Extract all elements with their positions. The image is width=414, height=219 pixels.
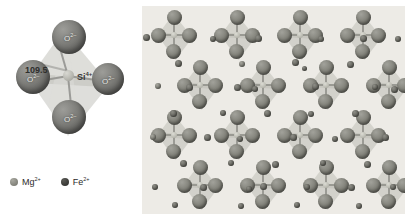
fe-cation [312, 83, 319, 90]
oxygen-sphere-bottom [229, 44, 244, 59]
fe-cation [143, 34, 150, 41]
fe-cation [252, 86, 258, 92]
fe-cation [382, 134, 389, 141]
fe-cation [238, 203, 244, 209]
oxygen-sphere-left [277, 28, 292, 43]
fe-cation [302, 66, 307, 71]
legend-label-mg: Mg2+ [22, 177, 41, 187]
fe-cation [318, 36, 324, 42]
oxygen-sphere-top [382, 60, 397, 75]
oxygen-sphere-bottom [166, 144, 181, 159]
fe-cation [260, 183, 267, 190]
fe-cation [352, 110, 359, 117]
fe-cation [292, 59, 299, 66]
silicon-sphere [323, 82, 329, 88]
mg-swatch-icon [10, 178, 18, 186]
oxygen-sphere-bottom [318, 94, 333, 109]
oxygen-sphere-right [245, 128, 260, 143]
oxygen-sphere-bottom [318, 194, 333, 209]
fe-swatch-icon [61, 178, 69, 186]
oxygen-sphere-bottom [381, 194, 396, 209]
oxygen-sphere-left [177, 178, 192, 193]
oxygen-sphere-left [214, 128, 229, 143]
oxygen-sphere-right [334, 178, 349, 193]
oxygen-sphere-bottom [52, 100, 86, 134]
oxygen-sphere-top [256, 160, 271, 175]
fe-cation [347, 61, 354, 68]
fe-cation [360, 35, 367, 42]
mg-cation [150, 134, 156, 140]
fe-cation [356, 203, 362, 209]
bond-angle-label: 109.5 [25, 66, 48, 75]
oxygen-sphere-top [230, 110, 245, 125]
silicon-sphere [171, 32, 177, 38]
oxygen-sphere-right [371, 28, 386, 43]
oxygen-sphere-right [92, 63, 124, 95]
oxygen-sphere-bottom [381, 94, 396, 109]
crystal-lattice [142, 6, 405, 214]
fe-cation [234, 84, 241, 91]
oxygen-sphere-bottom [355, 144, 370, 159]
fe-cation [304, 184, 310, 190]
oxygen-sphere-right [308, 128, 323, 143]
silicon-sphere [234, 32, 240, 38]
silicon-sphere [171, 132, 177, 138]
mg-cation [155, 83, 161, 89]
oxygen-sphere-top [167, 10, 182, 25]
tetrahedron-unit [272, 108, 328, 164]
oxygen-sphere-top [193, 60, 208, 75]
fe-cation [372, 84, 378, 90]
figure-root: O2– O2– O2– O2– Si4+ 109.5 Mg2+ Fe2+ [0, 0, 414, 219]
oxygen-sphere-right [334, 78, 349, 93]
oxygen-sphere-bottom [355, 44, 370, 59]
oxygen-sphere-top [193, 160, 208, 175]
fe-cation [364, 161, 371, 168]
legend-label-fe: Fe2+ [73, 177, 90, 187]
oxygen-sphere-right [271, 78, 286, 93]
fe-cation [272, 161, 279, 168]
oxygen-sphere-bottom [192, 94, 207, 109]
fe-cation [204, 134, 211, 141]
tetrahedron-stage: O2– O2– O2– O2– Si4+ 109.5 [8, 18, 132, 158]
oxygen-sphere-top [293, 110, 308, 125]
fe-cation [395, 36, 401, 42]
oxygen-sphere-left [340, 128, 355, 143]
oxygen-sphere-right [397, 178, 405, 193]
fe-cation [186, 84, 193, 91]
fe-cation [200, 184, 207, 191]
fe-cation [390, 184, 396, 190]
mg-cation [239, 61, 245, 67]
oxygen-sphere-left [340, 28, 355, 43]
oxygen-sphere-right [208, 178, 223, 193]
silicate-tetrahedron-panel: O2– O2– O2– O2– Si4+ 109.5 Mg2+ Fe2+ [0, 0, 140, 219]
oxygen-sphere-right [271, 178, 286, 193]
oxygen-sphere-left [366, 178, 381, 193]
fe-cation [264, 110, 271, 117]
oxygen-sphere-right [397, 78, 405, 93]
silicon-label: Si4+ [77, 71, 92, 82]
fe-cation [237, 136, 243, 142]
oxygen-sphere-left [214, 28, 229, 43]
silicon-sphere [197, 82, 203, 88]
oxygen-sphere-left [151, 28, 166, 43]
oxygen-sphere-top [293, 10, 308, 25]
silicon-sphere [323, 182, 329, 188]
fe-cation [391, 86, 398, 93]
oxygen-sphere-top [319, 60, 334, 75]
fe-cation [246, 186, 252, 192]
fe-cation [255, 35, 262, 42]
tetrahedron-unit [146, 8, 202, 64]
silicon-sphere [297, 32, 303, 38]
fe-cation [228, 160, 234, 166]
fe-cation [290, 134, 297, 141]
oxygen-sphere-top [52, 20, 86, 54]
oxygen-sphere-bottom [255, 194, 270, 209]
oxygen-sphere-right [208, 78, 223, 93]
fe-cation [170, 110, 177, 117]
oxygen-sphere-top [256, 60, 271, 75]
oxygen-sphere-top [356, 10, 371, 25]
oxygen-sphere-right [182, 28, 197, 43]
fe-cation [332, 136, 338, 142]
oxygen-sphere-top [230, 10, 245, 25]
oxygen-sphere-bottom [292, 44, 307, 59]
